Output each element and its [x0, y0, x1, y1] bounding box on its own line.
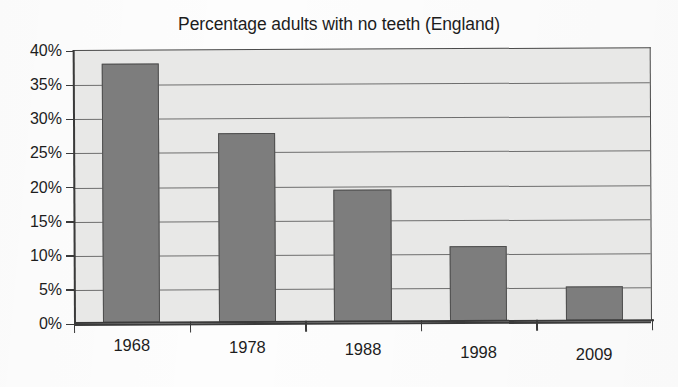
y-axis-tick — [66, 153, 74, 154]
y-axis-label: 5% — [4, 281, 62, 299]
y-axis-tick — [66, 187, 74, 188]
y-axis-tick — [66, 85, 74, 86]
gridline — [73, 82, 650, 86]
bar — [218, 133, 276, 322]
x-axis-label: 1978 — [229, 338, 266, 357]
x-axis-tick — [190, 321, 191, 332]
y-axis-tick — [66, 51, 74, 52]
x-axis-tick — [652, 319, 653, 330]
x-axis-label: 1988 — [345, 340, 382, 359]
y-axis-tick — [66, 119, 74, 120]
y-axis-tick — [66, 324, 74, 325]
x-axis-ticks — [74, 319, 654, 334]
y-axis-label: 10% — [4, 247, 62, 265]
x-axis-label: 1968 — [113, 336, 150, 355]
bar — [565, 286, 622, 320]
gridline — [73, 116, 650, 120]
plot-wrapper — [73, 47, 652, 323]
gridline — [73, 151, 650, 155]
x-axis-tick — [536, 320, 537, 331]
y-axis-label: 40% — [4, 42, 62, 60]
plot-area — [73, 47, 652, 323]
bar-series — [73, 48, 650, 51]
x-axis-tick — [421, 320, 422, 331]
y-axis-label: 0% — [4, 315, 62, 333]
bar — [450, 246, 508, 321]
x-axis-tick — [305, 321, 306, 332]
x-axis-label: 1998 — [460, 343, 497, 362]
y-axis-label: 25% — [4, 144, 62, 162]
y-axis-tick — [66, 289, 74, 290]
x-axis-tick — [74, 322, 75, 333]
x-axis-tick-labels: 19681978198819982009 — [74, 336, 654, 366]
chart-figure: Percentage adults with no teeth (England… — [0, 0, 678, 387]
y-axis-tick — [66, 221, 74, 222]
bar — [334, 189, 392, 322]
y-axis-label: 35% — [4, 76, 62, 94]
y-gridlines — [73, 48, 650, 51]
gridline — [73, 185, 650, 189]
y-axis-tick-labels: 40%35%30%25%20%15%10%5%0% — [0, 0, 62, 387]
x-axis-label: 2009 — [576, 345, 613, 364]
y-axis-label: 30% — [4, 110, 62, 128]
chart-title: Percentage adults with no teeth (England… — [0, 14, 678, 35]
y-axis-label: 20% — [4, 179, 62, 197]
y-axis-tick — [66, 255, 74, 256]
bar — [102, 63, 160, 323]
y-axis-label: 15% — [4, 213, 62, 231]
